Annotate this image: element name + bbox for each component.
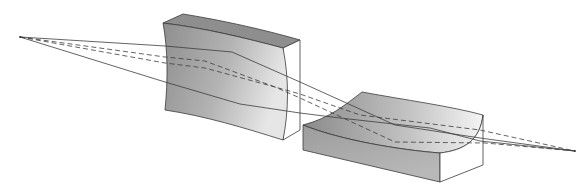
source-point [19,36,21,38]
lens-1 [163,14,300,140]
image-point [574,150,576,152]
lens-2 [303,92,483,182]
optics-diagram [0,0,587,196]
